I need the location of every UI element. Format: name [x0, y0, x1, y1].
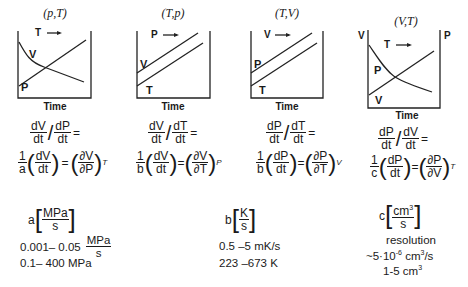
- unit-den: s: [96, 247, 102, 259]
- slash: /: [48, 123, 54, 143]
- eq-den: dt: [151, 133, 161, 145]
- eq-den: dt: [175, 133, 185, 145]
- param-c-unit: c [ cm3s ]: [379, 200, 421, 231]
- panel-4-arrow-label: T: [384, 39, 390, 50]
- panel-1-eq-partial: 1a (dVdt) = (∂V∂P)T: [18, 150, 107, 175]
- param-c-resolution-label: resolution: [376, 234, 446, 246]
- eq-subscript: T: [102, 159, 107, 167]
- unit-num: cm: [393, 204, 409, 218]
- panel-4-eq-ratio: dPdt / dVdt =: [378, 126, 428, 151]
- unit-den: s: [52, 220, 58, 232]
- panel-4-right-axis-label: P: [444, 30, 451, 41]
- unit-num: MPa: [86, 234, 112, 247]
- panel-4-curve-label-v: V: [375, 94, 382, 106]
- eq-den: dt: [381, 139, 391, 151]
- res-tail: /s: [424, 250, 433, 262]
- coef-b: b: [257, 163, 264, 175]
- eq-den: dt: [293, 133, 303, 145]
- eq-subscript: P: [216, 159, 221, 167]
- param-a-range: 0.1– 400 MPa: [20, 257, 92, 269]
- param-symbol: a: [28, 213, 35, 227]
- panel-4-curve-label-p: P: [374, 64, 381, 76]
- eq-den: dt: [33, 133, 43, 145]
- param-b-unit: b [ Ks ]: [225, 204, 256, 235]
- panel-3-eq-ratio: dPdt / dTdt =: [266, 120, 315, 145]
- eq-den: ∂P: [79, 163, 93, 175]
- res-pre: ~5·10: [366, 250, 396, 262]
- eq-den: dt: [406, 139, 416, 151]
- equals-sign: =: [308, 127, 315, 139]
- param-c-resolution: ~5·10-6 cm3/s: [366, 249, 433, 262]
- equals-sign: =: [297, 157, 304, 169]
- param-a-rate: 0.001– 0.05 MPas: [20, 234, 111, 259]
- slash: /: [166, 123, 172, 143]
- slash: /: [284, 123, 290, 143]
- equals-sign: =: [411, 161, 418, 173]
- panel-2-eq-ratio: dVdt / dTdt =: [148, 120, 197, 145]
- unit-den: s: [241, 220, 247, 232]
- eq-den: dt: [38, 163, 48, 175]
- range-sup: 3: [418, 264, 422, 271]
- coef-c: c: [371, 167, 377, 179]
- param-b-rate: 0.5 –5 mK/s: [219, 240, 280, 252]
- param-b-range: 223 –673 K: [219, 257, 278, 269]
- panel-2-eq-partial: 1b (dVdt) = (∂V∂T)P: [136, 150, 222, 175]
- eq-den: dt: [390, 167, 400, 179]
- equals-sign: =: [61, 157, 68, 169]
- panel-3-eq-partial: 1b (dPdt) = (∂P∂T)V: [256, 150, 342, 175]
- eq-den: dt: [276, 163, 286, 175]
- rate-range: 0.001– 0.05: [20, 241, 81, 253]
- param-c-range: 1-5 cm3: [383, 264, 422, 277]
- eq-den: dt: [58, 133, 68, 145]
- eq-den: ∂T: [314, 163, 327, 175]
- eq-den: ∂T: [194, 163, 207, 175]
- eq-den: ∂V: [427, 167, 441, 179]
- equals-sign: =: [73, 127, 80, 139]
- unit-sup: 3: [409, 204, 413, 211]
- arrow-right-icon: [407, 43, 412, 47]
- equals-sign: =: [190, 127, 197, 139]
- slash: /: [396, 129, 402, 149]
- panel-4-left-axis-label: V: [358, 30, 365, 41]
- unit-den: s: [400, 218, 406, 230]
- eq-subscript: V: [336, 159, 341, 167]
- panel-1-eq-ratio: dVdt / dPdt =: [30, 120, 80, 145]
- coef-a: a: [19, 163, 26, 175]
- eq-subscript: T: [450, 163, 455, 171]
- param-a-unit: a [ MPas ]: [28, 204, 76, 235]
- coef-b: b: [137, 163, 144, 175]
- range-pre: 1-5 cm: [383, 265, 418, 277]
- eq-den: dt: [156, 163, 166, 175]
- res-unit: cm: [402, 250, 421, 262]
- panel-4-eq-partial: 1c (dPdt) = (∂P∂V)T: [370, 154, 455, 179]
- panel-4-xlabel: Time: [377, 110, 437, 121]
- eq-den: dt: [269, 133, 279, 145]
- param-symbol: b: [225, 213, 232, 227]
- equals-sign: =: [421, 133, 428, 145]
- equals-sign: =: [177, 157, 184, 169]
